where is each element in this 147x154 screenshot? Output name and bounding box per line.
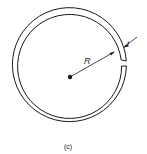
outer-ring-arc — [12, 8, 126, 122]
inner-ring-arc — [18, 14, 122, 118]
radius-line — [70, 52, 114, 77]
radius-arrowhead-icon — [110, 52, 116, 56]
radius-label: R — [84, 56, 91, 66]
gap-cap-top — [121, 60, 126, 61]
figure-caption: (c) — [64, 143, 72, 151]
thickness-label: t — [127, 39, 130, 48]
split-ring-diagram: R t (c) — [0, 0, 147, 154]
